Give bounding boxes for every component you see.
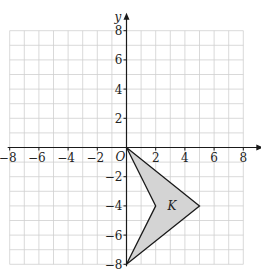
x-axis-arrow-icon <box>256 145 261 151</box>
x-tick-label: 2 <box>152 151 160 165</box>
y-axis-arrow-icon <box>124 13 130 20</box>
y-tick-label: 2 <box>115 112 123 126</box>
x-tick-label: 6 <box>210 151 218 165</box>
coordinate-grid: −8−6−4−224688642−2−4−6−8 x y O K <box>0 0 261 279</box>
x-tick-label: −2 <box>86 151 104 165</box>
y-tick-label: 8 <box>115 24 123 38</box>
x-tick-label: −6 <box>28 151 46 165</box>
y-axis-label: y <box>114 10 122 24</box>
y-tick-label: −2 <box>105 170 123 184</box>
x-tick-label: −4 <box>57 151 75 165</box>
y-tick-label: 4 <box>115 83 123 97</box>
origin-label: O <box>116 150 126 164</box>
x-tick-label: 8 <box>239 151 247 165</box>
y-tick-label: −4 <box>105 199 123 213</box>
y-tick-label: −6 <box>105 229 123 243</box>
axes <box>8 13 261 267</box>
shape-k-label: K <box>166 199 177 213</box>
y-tick-label: −8 <box>105 258 123 272</box>
x-tick-label: −8 <box>0 151 17 165</box>
y-tick-label: 6 <box>115 53 123 67</box>
x-tick-label: 4 <box>181 151 189 165</box>
